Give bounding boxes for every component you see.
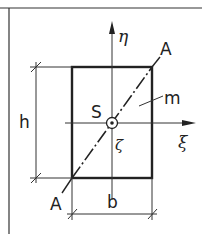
cross-section-diagram: η ξ ζ S A A m h b <box>0 0 202 234</box>
eta-axis <box>109 21 115 200</box>
point-a-bottom-label: A <box>50 194 62 214</box>
xi-arrow-icon <box>182 120 196 126</box>
eta-label: η <box>118 26 129 46</box>
zeta-label: ζ <box>115 136 124 154</box>
centroid-marker <box>107 118 118 129</box>
centroid-label: S <box>91 102 102 122</box>
xi-axis <box>65 120 196 126</box>
height-label: h <box>19 112 30 132</box>
line-m-label: m <box>164 88 181 108</box>
width-label: b <box>107 192 118 212</box>
point-a-top-label: A <box>160 39 172 59</box>
eta-arrow-icon <box>109 21 115 34</box>
xi-label: ξ <box>178 132 189 152</box>
